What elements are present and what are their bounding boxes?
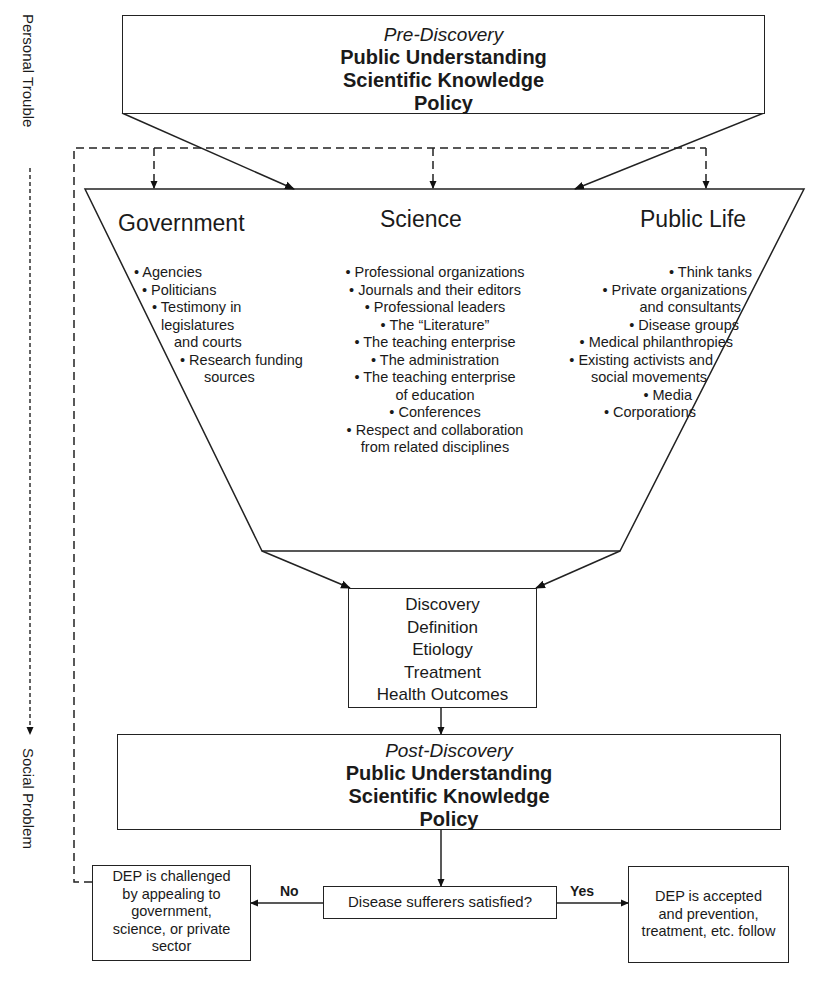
list-item: • Medical philanthropies: [540, 334, 760, 352]
list-item: of education: [330, 387, 540, 405]
government-list: • Agencies • Politicians • Testimony in …: [134, 264, 303, 387]
personal-trouble-label: Personal Trouble: [20, 14, 37, 127]
challenged-outcome-box: DEP is challenged by appealing to govern…: [92, 865, 251, 961]
discovery-item: Treatment: [349, 662, 536, 685]
list-item: • Corporations: [540, 404, 760, 422]
outcome-line: treatment, etc. follow: [629, 923, 788, 941]
list-item: sources: [204, 369, 303, 387]
post-discovery-title: Post-Discovery: [118, 740, 780, 762]
list-item: • Professional organizations: [330, 264, 540, 282]
connector-lines: [0, 0, 814, 993]
list-item: • Existing activists and: [540, 352, 760, 370]
post-discovery-box: Post-Discovery Public Understanding Scie…: [117, 734, 781, 830]
pre-discovery-line: Scientific Knowledge: [123, 69, 764, 92]
list-item: from related disciplines: [330, 439, 540, 457]
list-item: • Conferences: [330, 404, 540, 422]
outcome-line: DEP is accepted: [629, 888, 788, 906]
outcome-line: government,: [93, 903, 250, 921]
post-discovery-line: Public Understanding: [118, 762, 780, 785]
list-item: • The administration: [330, 352, 540, 370]
pre-discovery-line: Public Understanding: [123, 46, 764, 69]
list-item: legislatures: [161, 317, 303, 335]
no-label: No: [280, 883, 299, 899]
list-item: • Professional leaders: [330, 299, 540, 317]
science-heading: Science: [380, 206, 462, 232]
decision-question-box: Disease sufferers satisfied?: [323, 886, 557, 919]
outcome-line: science, or private: [93, 921, 250, 939]
list-item: • Agencies: [134, 264, 303, 282]
public-life-heading: Public Life: [640, 206, 746, 232]
list-item: • Media: [540, 387, 760, 405]
post-discovery-line: Policy: [118, 808, 780, 831]
list-item: • Think tanks: [540, 264, 760, 282]
pre-discovery-line: Policy: [123, 92, 764, 115]
list-item: • Research funding: [180, 352, 303, 370]
post-discovery-line: Scientific Knowledge: [118, 785, 780, 808]
list-item: • Testimony in: [152, 299, 303, 317]
yes-label: Yes: [570, 883, 594, 899]
accepted-outcome-box: DEP is accepted and prevention, treatmen…: [628, 866, 789, 963]
outcome-line: and prevention,: [629, 906, 788, 924]
discovery-item: Health Outcomes: [349, 684, 536, 707]
list-item: • Respect and collaboration: [330, 422, 540, 440]
decision-question: Disease sufferers satisfied?: [348, 893, 532, 910]
discovery-item: Discovery: [349, 594, 536, 617]
list-item: social movements: [540, 369, 760, 387]
list-item: and courts: [174, 334, 303, 352]
outcome-line: DEP is challenged: [93, 868, 250, 886]
social-problem-label: Social Problem: [20, 748, 37, 849]
list-item: • Private organizations: [540, 282, 760, 300]
list-item: • Disease groups: [540, 317, 760, 335]
outcome-line: sector: [93, 938, 250, 956]
public-life-list: • Think tanks • Private organizations an…: [540, 264, 760, 422]
discovery-item: Etiology: [349, 639, 536, 662]
discovery-item: Definition: [349, 617, 536, 640]
list-item: • Politicians: [142, 282, 303, 300]
list-item: • The teaching enterprise: [330, 334, 540, 352]
pre-discovery-box: Pre-Discovery Public Understanding Scien…: [122, 15, 765, 114]
list-item: and consultants: [540, 299, 760, 317]
list-item: • Journals and their editors: [330, 282, 540, 300]
science-list: • Professional organizations • Journals …: [330, 264, 540, 457]
government-heading: Government: [118, 210, 245, 236]
outcome-line: by appealing to: [93, 886, 250, 904]
list-item: • The teaching enterprise: [330, 369, 540, 387]
discovery-box: Discovery Definition Etiology Treatment …: [348, 588, 537, 708]
pre-discovery-title: Pre-Discovery: [123, 24, 764, 46]
list-item: • The “Literature”: [330, 317, 540, 335]
